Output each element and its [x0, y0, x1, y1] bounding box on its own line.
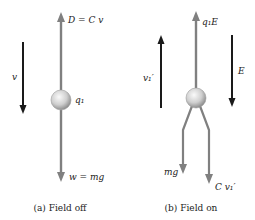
electric-force-label: q₁E — [202, 17, 218, 27]
field-arrow — [229, 35, 236, 107]
oil-drop-sphere — [51, 90, 71, 110]
panel-field-on: q₁E v₁′ E mg C v₁′ (b) Field on — [143, 11, 245, 213]
weight-arrow — [179, 106, 192, 174]
electric-force-arrow — [192, 11, 200, 88]
caption-field-on: (b) Field on — [165, 203, 218, 213]
drag-force-arrow — [57, 12, 65, 90]
charge-label: q₁ — [75, 95, 84, 105]
velocity-arrow — [20, 42, 27, 114]
caption-field-off: (a) Field off — [33, 203, 87, 213]
weight-label: w = mg — [69, 172, 105, 182]
panel-field-off: D = C v q₁ w = mg v (a) Field off — [12, 12, 105, 213]
velocity-label: v — [12, 72, 17, 82]
oil-drop-sphere — [186, 88, 206, 108]
field-label: E — [237, 66, 245, 76]
velocity-label: v₁′ — [143, 73, 154, 83]
weight-arrow — [57, 110, 65, 182]
millikan-diagram: D = C v q₁ w = mg v (a) Field off — [0, 0, 255, 220]
weight-label: mg — [164, 167, 179, 177]
velocity-arrow — [158, 35, 165, 108]
drag-force-arrow — [200, 106, 213, 184]
drag-force-label: C v₁′ — [215, 182, 235, 192]
drag-force-label: D = C v — [67, 15, 103, 25]
